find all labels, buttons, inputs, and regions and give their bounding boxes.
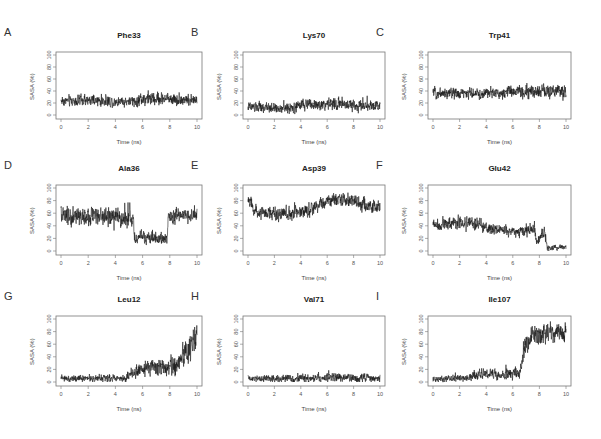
y-tick-label: 40: [233, 88, 239, 94]
x-axis-label: Time (ns): [56, 406, 202, 412]
x-tick-label: 10: [563, 260, 569, 266]
x-tick-label: 2: [458, 124, 461, 130]
sasa-trace: [248, 193, 380, 222]
y-tick-label: 40: [418, 354, 424, 360]
y-tick-label: 0: [418, 380, 424, 383]
panel-title: Val71: [243, 295, 385, 304]
x-tick-label: 0: [59, 124, 62, 130]
y-tick-label: 60: [418, 341, 424, 347]
panel-title: Phe33: [56, 31, 202, 40]
x-tick-label: 10: [377, 260, 383, 266]
x-tick-label: 8: [352, 124, 355, 130]
y-axis-label: SASA (%): [401, 338, 407, 365]
x-tick-label: 0: [59, 391, 62, 397]
x-tick-label: 2: [458, 260, 461, 266]
y-tick-label: 60: [418, 210, 424, 216]
x-axis-label: Time (ns): [243, 139, 385, 145]
x-tick-label: 2: [87, 124, 90, 130]
x-tick-label: 4: [299, 124, 302, 130]
y-tick-label: 0: [418, 113, 424, 116]
y-tick-label: 0: [233, 113, 239, 116]
y-tick-label: 80: [418, 64, 424, 70]
x-tick-label: 4: [114, 260, 117, 266]
y-tick-label: 100: [418, 183, 424, 192]
x-tick-label: 4: [485, 260, 488, 266]
y-tick-label: 80: [46, 329, 52, 335]
x-tick-label: 2: [273, 260, 276, 266]
y-tick-label: 60: [233, 210, 239, 216]
x-tick-label: 6: [141, 124, 144, 130]
x-tick-label: 0: [431, 391, 434, 397]
x-tick-label: 10: [194, 260, 200, 266]
x-tick-label: 8: [168, 124, 171, 130]
x-axis-label: Time (ns): [56, 275, 202, 281]
x-tick-label: 8: [538, 124, 541, 130]
y-tick-label: 0: [233, 380, 239, 383]
plot-frame: [428, 52, 571, 119]
x-tick-label: 6: [141, 391, 144, 397]
y-axis-label: SASA (%): [29, 73, 35, 100]
panel-title: Leu12: [56, 295, 202, 304]
y-axis-label: SASA (%): [401, 207, 407, 234]
x-tick-label: 6: [511, 260, 514, 266]
x-tick-label: 10: [377, 124, 383, 130]
x-tick-label: 0: [246, 124, 249, 130]
y-tick-label: 100: [233, 50, 239, 59]
sasa-trace: [61, 202, 197, 245]
sasa-trace: [433, 83, 566, 101]
y-tick-label: 60: [46, 210, 52, 216]
plot-area: 0204060801000246810: [229, 185, 391, 275]
y-tick-label: 100: [233, 314, 239, 323]
x-tick-label: 4: [485, 391, 488, 397]
plot-area: 0204060801000246810: [414, 52, 577, 139]
y-tick-label: 0: [46, 249, 52, 252]
panel-title: Ile107: [428, 295, 571, 304]
y-axis-label: SASA (%): [216, 338, 222, 365]
x-tick-label: 10: [563, 391, 569, 397]
y-tick-label: 40: [233, 223, 239, 229]
panel-letter: I: [376, 290, 379, 302]
y-axis-label: SASA (%): [29, 338, 35, 365]
x-axis-label: Time (ns): [428, 139, 571, 145]
y-tick-label: 40: [418, 88, 424, 94]
x-axis-label: Time (ns): [428, 406, 571, 412]
y-tick-label: 20: [46, 100, 52, 106]
sasa-trace: [61, 90, 197, 107]
x-tick-label: 0: [246, 391, 249, 397]
x-tick-label: 8: [538, 391, 541, 397]
panel-title: Ala36: [56, 164, 202, 173]
y-tick-label: 40: [233, 354, 239, 360]
y-tick-label: 60: [46, 341, 52, 347]
y-tick-label: 20: [418, 100, 424, 106]
x-tick-label: 6: [326, 391, 329, 397]
sasa-trace: [61, 325, 197, 382]
y-axis-label: SASA (%): [401, 73, 407, 100]
x-tick-label: 6: [326, 124, 329, 130]
y-axis-label: SASA (%): [216, 73, 222, 100]
sasa-trace: [433, 215, 566, 251]
x-tick-label: 10: [194, 124, 200, 130]
y-tick-label: 20: [233, 100, 239, 106]
x-tick-label: 2: [87, 391, 90, 397]
x-tick-label: 6: [141, 260, 144, 266]
x-axis-label: Time (ns): [243, 406, 385, 412]
x-axis-label: Time (ns): [243, 275, 385, 281]
panel-letter: C: [376, 26, 384, 38]
y-tick-label: 100: [46, 50, 52, 59]
x-tick-label: 0: [59, 260, 62, 266]
panel-letter: G: [4, 290, 13, 302]
y-axis-label: SASA (%): [29, 207, 35, 234]
y-tick-label: 20: [233, 235, 239, 241]
panel-letter: H: [191, 290, 199, 302]
panel-letter: E: [191, 159, 198, 171]
x-tick-label: 0: [246, 260, 249, 266]
plot-area: 0204060801000246810: [229, 316, 391, 406]
y-tick-label: 20: [233, 366, 239, 372]
x-tick-label: 10: [377, 391, 383, 397]
plot-area: 0204060801000246810: [414, 185, 577, 275]
y-tick-label: 40: [46, 223, 52, 229]
x-axis-label: Time (ns): [428, 275, 571, 281]
panel-letter: B: [191, 26, 198, 38]
y-tick-label: 100: [233, 183, 239, 192]
x-tick-label: 8: [352, 260, 355, 266]
